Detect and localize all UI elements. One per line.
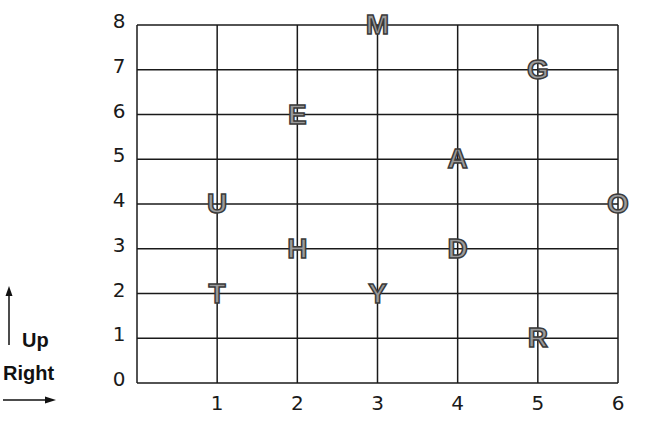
y-tick-label: 4	[113, 190, 126, 210]
point-letter-y: Y	[368, 280, 387, 308]
point-letter-a: A	[448, 145, 468, 173]
y-tick-label: 8	[113, 11, 126, 31]
x-tick-label: 2	[291, 393, 304, 413]
right-arrow-icon	[0, 392, 70, 408]
x-tick-label: 6	[612, 393, 625, 413]
point-letter-e: E	[288, 101, 307, 129]
point-letter-u: U	[207, 190, 227, 218]
point-letter-o: O	[607, 190, 629, 218]
point-letter-d: D	[448, 235, 468, 263]
x-tick-label: 5	[531, 393, 544, 413]
up-label: Up	[22, 330, 49, 350]
point-letter-g: G	[527, 56, 549, 84]
y-tick-label: 0	[113, 369, 126, 389]
x-tick-label: 3	[371, 393, 384, 413]
point-letter-h: H	[287, 235, 307, 263]
point-letter-r: R	[528, 324, 548, 352]
y-tick-label: 7	[113, 56, 126, 76]
x-tick-label: 4	[451, 393, 464, 413]
right-label: Right	[3, 363, 54, 383]
x-tick-label: 1	[211, 393, 224, 413]
point-letter-m: M	[366, 11, 389, 39]
y-tick-label: 3	[113, 235, 126, 255]
y-tick-label: 5	[113, 145, 126, 165]
point-letter-t: T	[209, 280, 226, 308]
y-tick-label: 2	[113, 280, 126, 300]
y-tick-label: 1	[113, 324, 126, 344]
y-tick-label: 6	[113, 101, 126, 121]
